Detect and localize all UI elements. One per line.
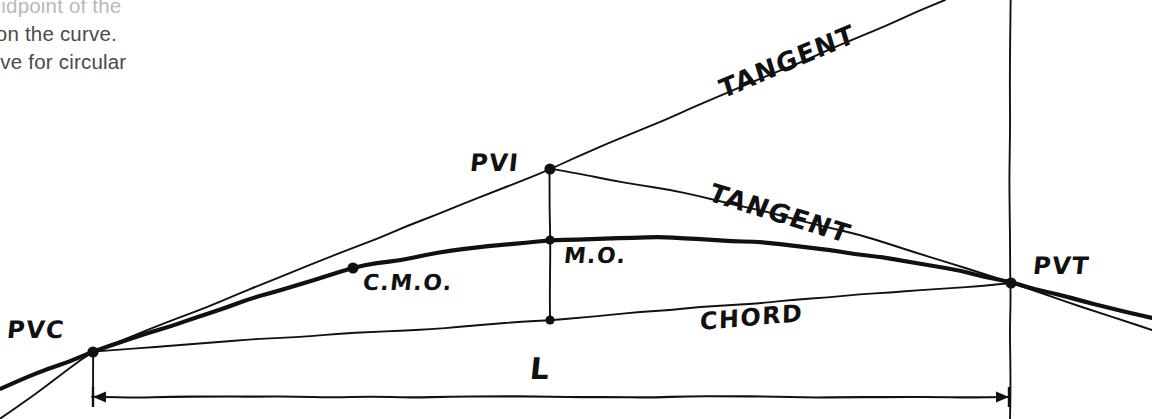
label-pvi: PVI [469,149,521,177]
vertical-curve-sketch [0,0,1152,419]
point-marker-pvc [87,346,98,357]
label-curve-length: L [528,351,552,386]
point-marker-pvi [544,163,555,174]
dimension-arrow-left [93,392,106,403]
point-marker-pvt [1005,277,1016,288]
diagram-page: midpoint of the t on the curve. olve for… [0,0,1152,419]
point-marker-cmo [347,262,358,273]
label-cmo: C.M.O. [362,270,454,295]
curve-line-forward-tangent [550,169,1152,330]
label-pvc: PVC [6,316,67,344]
dimension-arrow-right [996,392,1009,403]
point-marker-mo [545,235,554,244]
length-dimension-layer [92,387,1009,407]
point-marker-chord_mid [545,315,554,324]
dimension-line-length [92,396,1009,397]
curve-lines-layer [0,0,1152,419]
curve-points-layer [87,163,1016,357]
label-mo: M.O. [563,243,628,268]
curve-line-pvt-station-vertical [1009,0,1010,419]
label-pvt: PVT [1032,252,1092,280]
